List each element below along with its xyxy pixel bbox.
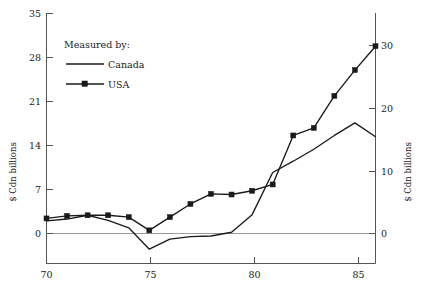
tick-label-left-21: 21 bbox=[29, 96, 41, 107]
data-point-marker bbox=[250, 188, 255, 193]
data-point-marker bbox=[352, 68, 357, 73]
legend-title: Measured by: bbox=[64, 39, 130, 50]
data-point-marker bbox=[126, 215, 131, 220]
tick-label-left-35: 35 bbox=[29, 8, 41, 19]
tick-label-right-20: 20 bbox=[381, 103, 393, 114]
data-point-marker bbox=[167, 215, 172, 220]
data-point-marker bbox=[85, 213, 90, 218]
data-point-marker bbox=[44, 216, 49, 221]
tick-label-left-0: 0 bbox=[35, 228, 41, 239]
data-point-marker bbox=[65, 213, 70, 218]
tick-label-left-14: 14 bbox=[29, 140, 41, 151]
tick-label-right-0: 0 bbox=[381, 228, 387, 239]
legend-swatch-usa-marker bbox=[82, 81, 87, 86]
tick-label-right-10: 10 bbox=[381, 166, 393, 177]
data-point-marker bbox=[311, 125, 316, 130]
data-point-marker bbox=[106, 213, 111, 218]
tick-label-x-75: 75 bbox=[144, 269, 156, 280]
tick-label-left-7: 7 bbox=[35, 184, 41, 195]
data-point-marker bbox=[291, 133, 296, 138]
data-point-marker bbox=[270, 182, 275, 187]
data-point-marker bbox=[373, 44, 378, 49]
left-axis-title: $ Cdn billions bbox=[8, 142, 18, 202]
tick-label-x-80: 80 bbox=[248, 269, 260, 280]
chart-container: 35 28 21 14 7 0 30 20 10 0 70 75 80 bbox=[0, 0, 423, 291]
tick-label-x-70: 70 bbox=[40, 269, 52, 280]
data-point-marker bbox=[209, 191, 214, 196]
tick-label-left-28: 28 bbox=[29, 52, 41, 63]
legend-label-usa: USA bbox=[108, 79, 130, 90]
data-point-marker bbox=[332, 93, 337, 98]
tick-label-right-30: 30 bbox=[381, 40, 393, 51]
legend-label-canada: Canada bbox=[108, 59, 145, 70]
tick-label-x-85: 85 bbox=[352, 269, 364, 280]
data-point-marker bbox=[188, 201, 193, 206]
right-axis-title: $ Cdn billions bbox=[403, 142, 413, 202]
data-point-marker bbox=[229, 192, 234, 197]
data-point-marker bbox=[147, 228, 152, 233]
line-chart: 35 28 21 14 7 0 30 20 10 0 70 75 80 bbox=[0, 0, 423, 291]
